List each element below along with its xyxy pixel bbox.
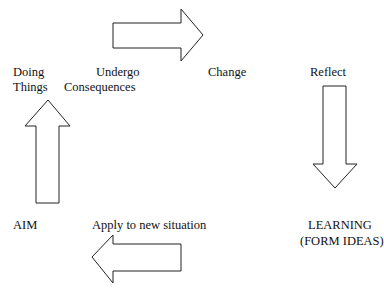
left-arrow-icon [92,235,181,283]
label-reflect: Reflect [310,65,346,79]
label-change: Change [208,65,246,79]
label-consequences: Consequences [64,80,136,94]
label-things: Things [13,80,48,94]
up-arrow-icon [25,100,70,203]
label-doing: Doing [13,65,44,79]
label-aim: AIM [13,218,37,232]
label-apply: Apply to new situation [92,218,206,232]
down-arrow-icon [313,86,357,188]
label-learning: LEARNING [308,218,372,232]
label-form-ideas: (FORM IDEAS) [300,234,384,248]
right-arrow-icon [113,9,203,61]
label-undergo: Undergo [96,65,140,79]
